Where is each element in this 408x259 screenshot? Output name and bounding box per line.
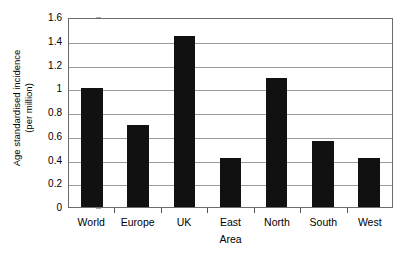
bar-slot bbox=[69, 19, 115, 207]
bar-world bbox=[81, 88, 103, 207]
bar-north bbox=[266, 78, 288, 207]
bar-slot bbox=[115, 19, 161, 207]
y-axis-tick-label: 1.2 bbox=[48, 61, 62, 71]
y-axis-tick-label: 0.8 bbox=[48, 108, 62, 118]
bar-series bbox=[69, 19, 392, 207]
bar-slot bbox=[254, 19, 300, 207]
y-axis-tick-label: 1.6 bbox=[48, 13, 62, 23]
x-axis-tick-labels: WorldEuropeUKEastNorthSouthWest bbox=[68, 215, 393, 231]
bar-europe bbox=[127, 125, 149, 207]
bar-slot bbox=[300, 19, 346, 207]
x-axis-tick-mark bbox=[347, 208, 348, 213]
x-axis-tick-label: North bbox=[254, 215, 300, 231]
x-axis-tick-mark bbox=[254, 208, 255, 213]
bar-slot bbox=[207, 19, 253, 207]
y-axis-tick-label: 1 bbox=[56, 84, 62, 94]
x-axis-tick-label: Europe bbox=[114, 215, 160, 231]
bar-east bbox=[220, 158, 242, 207]
x-axis-tick-label: South bbox=[300, 215, 346, 231]
plot-area bbox=[68, 18, 393, 208]
y-axis-tick-label: 0.6 bbox=[48, 132, 62, 142]
bar-uk bbox=[174, 36, 196, 207]
y-axis-title-line1: Age standardised incidence bbox=[11, 49, 22, 166]
x-axis-tick-label: East bbox=[207, 215, 253, 231]
x-axis-tick-mark bbox=[207, 208, 208, 213]
bar-west bbox=[358, 158, 380, 207]
y-axis-tick-labels: 1.61.41.210.80.60.40.20 bbox=[34, 0, 66, 259]
bar-south bbox=[312, 141, 334, 208]
x-axis-tick-mark bbox=[161, 208, 162, 213]
x-axis-tick-label: World bbox=[68, 215, 114, 231]
y-axis-tick-label: 0.2 bbox=[48, 179, 62, 189]
x-axis-tick-mark bbox=[300, 208, 301, 213]
x-axis-ticks bbox=[68, 208, 393, 214]
y-axis-tick-label: 0.4 bbox=[48, 156, 62, 166]
y-axis-tick-label: 1.4 bbox=[48, 37, 62, 47]
y-axis-tick-label: 0 bbox=[56, 203, 62, 213]
x-axis-tick-label: West bbox=[347, 215, 393, 231]
x-axis-title: Area bbox=[68, 232, 393, 246]
bar-slot bbox=[161, 19, 207, 207]
bar-chart: Age standardised incidence (per million)… bbox=[0, 0, 408, 259]
bar-slot bbox=[346, 19, 392, 207]
x-axis-tick-label: UK bbox=[161, 215, 207, 231]
x-axis-tick-mark bbox=[114, 208, 115, 213]
